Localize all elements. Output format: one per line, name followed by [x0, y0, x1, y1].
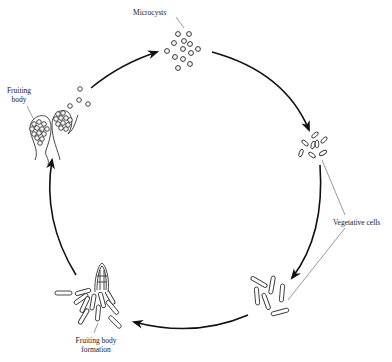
label-fruiting-body-line1: Fruiting: [4, 86, 34, 95]
label-fruiting-body-formation-line1: Fruiting body: [68, 336, 124, 345]
arrow-vegetative-to-rods: [292, 165, 321, 278]
vegetative-rods-bottom: [250, 276, 289, 316]
vegetative-leader-line-1: [322, 160, 345, 215]
microcysts-leader-line: [176, 17, 184, 28]
vegetative-cells-cluster-top: [298, 131, 328, 159]
arrow-microcysts-to-vegetative: [212, 52, 309, 130]
vegetative-leader-line-2: [288, 228, 345, 300]
fruiting-body-formation-cluster: [55, 263, 122, 329]
fruiting-body-cluster: [30, 87, 91, 165]
label-fruiting-body-line2: body: [4, 95, 34, 104]
life-cycle-diagram: [0, 0, 392, 362]
arrow-formation-to-fruiting-body: [50, 160, 76, 275]
label-microcysts: Microcysts: [133, 8, 166, 17]
label-fruiting-body-formation: Fruiting body formation: [68, 336, 124, 354]
label-fruiting-body: Fruiting body: [4, 86, 34, 104]
microcysts-cluster: [165, 32, 201, 71]
arrow-rods-to-formation: [134, 315, 248, 329]
formation-leader-line: [94, 323, 98, 333]
cycle-arrows: [50, 52, 321, 329]
label-fruiting-body-formation-line2: formation: [68, 345, 124, 354]
fruiting-body-leader-line: [27, 106, 34, 120]
label-vegetative-cells: Vegetative cells: [333, 218, 380, 227]
arrow-fruiting-body-to-microcysts: [91, 52, 157, 88]
